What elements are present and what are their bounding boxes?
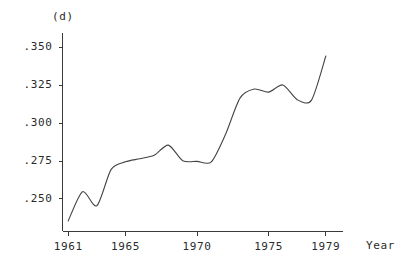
y-tick-label: .250 [7, 193, 53, 205]
y-tick-label: .300 [7, 117, 53, 129]
axes-group [63, 33, 344, 232]
x-tick-label: 1970 [174, 241, 220, 253]
y-tick-group [59, 47, 63, 199]
x-tick-label: 1961 [45, 241, 91, 253]
chart-canvas [0, 0, 420, 268]
y-tick-label: .350 [7, 41, 53, 53]
y-tick-label: .275 [7, 155, 53, 167]
x-tick-label: 1975 [246, 241, 292, 253]
chart-figure: (d) Year .250.275.300.325.350 1961196519… [0, 0, 420, 268]
x-tick-group [68, 232, 326, 236]
data-series-line [68, 56, 326, 221]
plot-caption: (d) [52, 11, 74, 23]
y-tick-label: .325 [7, 79, 53, 91]
x-axis-title: Year [366, 240, 395, 252]
x-tick-label: 1979 [303, 241, 349, 253]
x-tick-label: 1965 [102, 241, 148, 253]
